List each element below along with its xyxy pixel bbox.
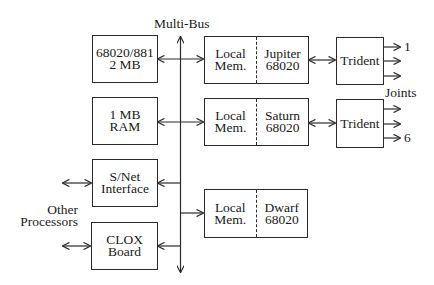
trident-2-label: Trident	[340, 118, 379, 130]
jupiter-processor-box: Local Mem. Jupiter 68020	[204, 36, 309, 84]
jupiter-cpu-line2: 68020	[266, 60, 300, 72]
trident-1-label: Trident	[340, 55, 379, 67]
jupiter-mem-line2: Mem.	[215, 60, 247, 72]
joint-last-label: 6	[404, 132, 411, 144]
other-processors-line2: Processors	[20, 216, 78, 228]
saturn-cpu: Saturn 68020	[257, 99, 308, 145]
clox-box-line2: Board	[106, 246, 143, 258]
snet-interface-box: S/Net Interface	[92, 159, 158, 207]
dwarf-cpu: Dwarf 68020	[257, 190, 308, 237]
joint-first-label: 1	[404, 41, 411, 53]
jupiter-cpu: Jupiter 68020	[257, 37, 308, 83]
cpu-box-line2: 2 MB	[96, 59, 154, 71]
saturn-cpu-line2: 68020	[266, 122, 300, 134]
dwarf-processor-box: Local Mem. Dwarf 68020	[204, 189, 308, 238]
ram-box-line2: RAM	[109, 121, 140, 133]
cpu-68020-881-box: 68020/881 2 MB	[92, 35, 158, 83]
clox-board-box: CLOX Board	[91, 222, 158, 270]
other-processors-label: Other Processors	[20, 204, 78, 228]
ram-box: 1 MB RAM	[92, 97, 158, 145]
system-architecture-diagram: Multi-Bus 68020/881 2 MB 1 MB RAM S/Net …	[0, 0, 434, 285]
joints-caption: Joints	[385, 87, 417, 99]
saturn-processor-box: Local Mem. Saturn 68020	[204, 98, 309, 146]
dwarf-local-memory: Local Mem.	[205, 190, 257, 237]
saturn-local-memory: Local Mem.	[205, 99, 257, 145]
jupiter-local-memory: Local Mem.	[205, 37, 257, 83]
trident-box-2: Trident	[336, 99, 384, 148]
dwarf-cpu-line2: 68020	[265, 214, 299, 226]
snet-box-line2: Interface	[101, 183, 149, 195]
multibus-label: Multi-Bus	[154, 18, 210, 30]
dwarf-mem-line2: Mem.	[214, 214, 246, 226]
saturn-mem-line2: Mem.	[215, 122, 247, 134]
trident-box-1: Trident	[336, 37, 384, 85]
